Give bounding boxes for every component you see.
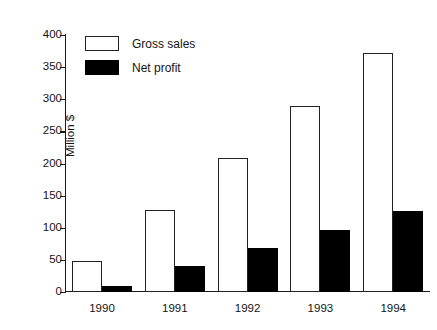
y-tick-label: 350 — [43, 60, 62, 73]
x-tick-label: 1990 — [72, 302, 132, 314]
bar-net-profit — [175, 266, 205, 292]
bar-chart-figure: Million $ 050100150200250300350400 19901… — [0, 0, 437, 330]
bar-gross-sales — [72, 261, 102, 292]
legend-label-gross-sales: Gross sales — [132, 37, 195, 51]
y-tick-label: 300 — [43, 92, 62, 105]
x-tick-label: 1994 — [363, 302, 423, 314]
bar-group — [363, 35, 423, 292]
bar-gross-sales — [218, 158, 248, 292]
y-tick-label: 0 — [56, 285, 62, 298]
cropped-caption-fragment — [8, 0, 208, 3]
legend-label-net-profit: Net profit — [132, 61, 181, 75]
legend-item-gross-sales: Gross sales — [85, 33, 195, 54]
y-tick-label: 100 — [43, 221, 62, 234]
bar-gross-sales — [145, 210, 175, 292]
x-tick-label: 1991 — [145, 302, 205, 314]
legend-swatch-gross-sales-icon — [85, 36, 119, 51]
y-tick-label: 50 — [49, 253, 62, 266]
y-tick-label: 200 — [43, 157, 62, 170]
bar-group — [218, 35, 278, 292]
bar-group — [290, 35, 350, 292]
y-tick-label: 150 — [43, 189, 62, 202]
chart-legend: Gross sales Net profit — [85, 33, 195, 81]
bar-net-profit — [248, 248, 278, 292]
legend-swatch-net-profit-icon — [85, 60, 119, 75]
x-tick-label: 1993 — [290, 302, 350, 314]
bar-net-profit — [102, 286, 132, 292]
bar-gross-sales — [290, 106, 320, 292]
legend-item-net-profit: Net profit — [85, 57, 195, 78]
bar-net-profit — [393, 211, 423, 292]
bar-net-profit — [320, 230, 350, 292]
y-tick-label: 250 — [43, 124, 62, 137]
x-tick-label: 1992 — [218, 302, 278, 314]
y-tick-label: 400 — [43, 28, 62, 41]
bar-gross-sales — [363, 53, 393, 292]
